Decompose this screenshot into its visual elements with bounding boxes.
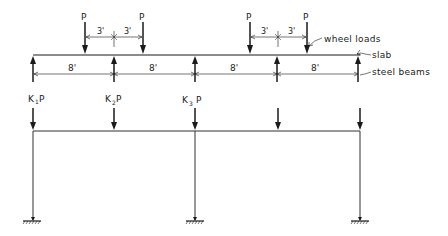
k2-label: K: [105, 94, 112, 104]
arrow-down-icon: [357, 122, 363, 130]
wheel-load-3: P: [246, 12, 253, 54]
svg-text:P: P: [116, 94, 122, 104]
frame-load-1: [30, 108, 36, 130]
load-label-k2: K 2 P: [105, 94, 122, 106]
structural-diagram: P P P P 3' 3': [0, 0, 448, 236]
annotation-label: slab: [372, 50, 392, 60]
frame-load-3: [192, 108, 198, 130]
wheel-load-label: P: [81, 12, 87, 22]
wheel-load-label: P: [246, 12, 252, 22]
svg-text:P: P: [39, 94, 45, 104]
arrow-up-icon: [30, 56, 36, 64]
arrow-down-icon: [30, 122, 36, 130]
dimension-label: 3': [97, 27, 104, 36]
arrow-down-icon: [140, 45, 146, 54]
upper-model: P P P P 3' 3': [30, 12, 430, 82]
lower-model: K 1 P K 2 P K 3 P: [23, 94, 369, 224]
wheel-spacing-left: 3' 3': [86, 27, 142, 47]
arrow-down-icon: [304, 45, 310, 54]
wheel-load-4: P: [303, 12, 310, 54]
frame-load-4: [275, 108, 281, 130]
wheel-load-label: P: [139, 12, 145, 22]
k1-label: K: [28, 94, 35, 104]
wheel-load-1: P: [81, 12, 88, 54]
svg-text:P: P: [196, 95, 202, 105]
arrow-down-icon: [111, 122, 117, 130]
arrow-down-icon: [82, 45, 88, 54]
k3-label: K: [182, 95, 189, 105]
arrow-up-icon: [355, 56, 361, 64]
annotation-steel-beams: steel beams: [360, 67, 430, 77]
dimension-label: 8': [311, 63, 319, 73]
dimension-label: 3': [261, 27, 268, 36]
wheel-load-label: P: [303, 12, 309, 22]
svg-text:3: 3: [189, 100, 193, 107]
annotation-slab: slab: [357, 50, 392, 60]
annotation-label: steel beams: [372, 67, 430, 77]
load-label-k3: K 3 P: [182, 95, 202, 107]
arrow-down-icon: [247, 45, 253, 54]
arrow-up-icon: [192, 56, 198, 64]
frame-load-2: [111, 108, 117, 130]
load-label-k1: K 1 P: [28, 94, 45, 105]
fixed-support-icon: [186, 217, 204, 224]
annotation-wheel-loads: wheel loads: [309, 34, 381, 46]
arrow-up-icon: [111, 56, 117, 64]
wheel-load-2: P: [139, 12, 146, 54]
dimension-label: 3': [124, 27, 131, 36]
beam-reaction-3: [192, 56, 198, 82]
arrow-down-icon: [192, 122, 198, 130]
wheel-spacing-right: 3' 3': [251, 27, 306, 47]
arrow-up-icon: [274, 56, 280, 64]
beam-spacing-dimension: 8' 8' 8' 8': [34, 63, 358, 76]
fixed-support-icon: [23, 217, 41, 224]
beam-reaction-1: [30, 56, 36, 82]
dimension-label: 8': [149, 63, 157, 73]
annotation-label: wheel loads: [324, 34, 381, 44]
fixed-support-icon: [351, 217, 369, 224]
beam-reaction-2: [111, 56, 117, 82]
dimension-label: 8': [68, 63, 76, 73]
arrow-down-icon: [275, 122, 281, 130]
frame-load-5: [357, 108, 363, 130]
beam-reaction-5: [355, 56, 361, 82]
dimension-label: 3': [288, 27, 295, 36]
dimension-label: 8': [230, 63, 238, 73]
beam-reaction-4: [274, 56, 280, 82]
